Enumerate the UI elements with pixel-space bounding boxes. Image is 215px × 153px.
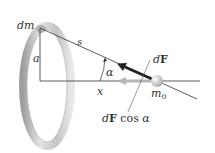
label-s: s <box>77 37 82 47</box>
ring-gravitation-diagram: dm s a α x dF m0 dF cos α <box>0 0 215 153</box>
label-leader-line <box>128 60 150 112</box>
label-x: x <box>97 86 103 97</box>
label-dF-d: d <box>153 53 160 66</box>
label-dFcos-F: F <box>109 112 117 125</box>
angle-arrowhead <box>103 58 107 62</box>
label-dFcos-alpha: α <box>142 112 149 125</box>
label-alpha: α <box>106 67 113 78</box>
label-m0: m0 <box>151 88 167 101</box>
label-dFcos-cos: cos <box>117 112 142 125</box>
label-dFcos-d: d <box>102 112 109 125</box>
label-a: a <box>33 53 40 64</box>
label-m0-subscript: 0 <box>161 92 166 101</box>
label-dm: dm <box>17 20 34 31</box>
mass-element-dm-marker <box>36 25 46 33</box>
ring <box>23 25 71 146</box>
label-dF-F: F <box>160 53 168 66</box>
label-m0-m: m <box>151 87 161 100</box>
label-dF-cos-alpha: dF cos α <box>102 113 150 124</box>
point-mass-m0 <box>151 75 163 87</box>
force-arrow-dF <box>117 63 152 79</box>
label-dF: dF <box>153 54 168 65</box>
